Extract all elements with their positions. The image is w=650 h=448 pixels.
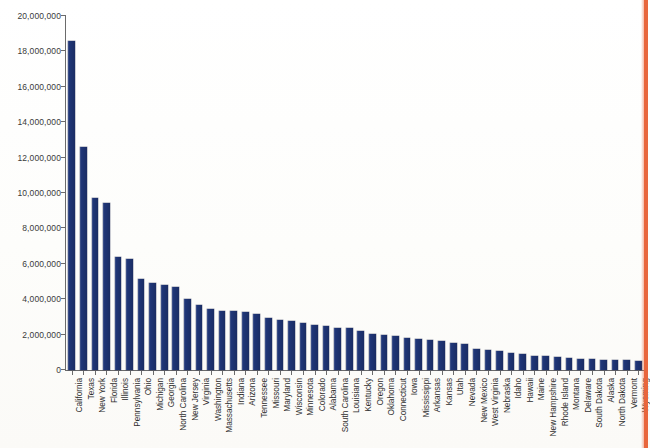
y-tick-label: 12,000,000: [0, 152, 66, 164]
x-tick-mark: [280, 371, 281, 375]
x-axis-label: Hawaii: [526, 378, 535, 403]
bar: [623, 360, 630, 370]
bar: [496, 351, 503, 370]
y-tick-label: 16,000,000: [0, 81, 66, 93]
x-axis-label: Ohio: [144, 378, 153, 395]
y-tick-label: 6,000,000: [0, 258, 66, 270]
x-axis-label: South Carolina: [341, 378, 350, 432]
y-tick-text: 8,000,000: [0, 222, 66, 234]
bar: [115, 257, 122, 370]
x-axis-label: Kansas: [445, 378, 454, 405]
x-tick-mark: [384, 371, 385, 375]
bar: [103, 203, 110, 370]
x-tick-mark: [580, 371, 581, 375]
bar: [277, 320, 284, 370]
bar: [300, 323, 307, 370]
x-axis-label: Indiana: [237, 378, 246, 405]
x-tick-mark: [442, 371, 443, 375]
x-axis-label: New York: [98, 378, 107, 413]
x-axis-label: Idaho: [514, 378, 523, 399]
x-tick-mark: [199, 371, 200, 375]
x-axis-label: Iowa: [410, 378, 419, 395]
bar: [207, 309, 214, 370]
x-tick-mark: [245, 371, 246, 375]
y-tick-text: 14,000,000: [0, 116, 66, 128]
x-axis-label: Oklahoma: [387, 378, 396, 415]
x-axis-label: South Dakota: [595, 378, 604, 428]
bar: [369, 334, 376, 370]
x-tick-mark: [488, 371, 489, 375]
y-tick-label: 14,000,000: [0, 116, 66, 128]
x-tick-mark: [106, 371, 107, 375]
x-axis-label: Maine: [537, 378, 546, 400]
bar: [253, 314, 260, 370]
x-axis-label: Arizona: [248, 378, 257, 406]
x-axis-label: Maryland: [283, 378, 292, 412]
bar: [346, 328, 353, 370]
x-tick-mark: [546, 371, 547, 375]
x-tick-mark: [291, 371, 292, 375]
x-tick-mark: [118, 371, 119, 375]
x-tick-mark: [257, 371, 258, 375]
bar: [427, 340, 434, 370]
bar: [219, 311, 226, 370]
x-tick-mark: [130, 371, 131, 375]
bar: [508, 353, 515, 370]
bar: [600, 360, 607, 370]
y-tick-text: 16,000,000: [0, 81, 66, 93]
bar: [311, 325, 318, 370]
x-axis-label: Vermont: [630, 378, 639, 409]
x-tick-mark: [592, 371, 593, 375]
bar: [577, 359, 584, 370]
y-tick-text: 20,000,000: [0, 10, 66, 22]
y-tick-label: 18,000,000: [0, 45, 66, 57]
x-axis-label: Washington: [214, 378, 223, 421]
x-tick-mark: [615, 371, 616, 375]
bar: [473, 349, 480, 370]
x-axis-label: Massachusetts: [225, 378, 234, 433]
x-axis-label: Minnesota: [306, 378, 315, 416]
x-tick-mark: [315, 371, 316, 375]
x-tick-mark: [453, 371, 454, 375]
x-axis-label: Virginia: [202, 378, 211, 405]
x-tick-mark: [234, 371, 235, 375]
x-tick-mark: [476, 371, 477, 375]
x-tick-mark: [326, 371, 327, 375]
x-axis-label: Pennsylvania: [133, 378, 142, 427]
y-tick-text: 18,000,000: [0, 45, 66, 57]
bar: [196, 305, 203, 370]
x-tick-mark: [465, 371, 466, 375]
x-tick-mark: [349, 371, 350, 375]
y-tick-text: 6,000,000: [0, 258, 66, 270]
x-tick-mark: [638, 371, 639, 375]
bar: [230, 311, 237, 370]
x-axis-label: North Carolina: [179, 378, 188, 431]
y-tick-text: 10,000,000: [0, 187, 66, 199]
y-tick-text: 2,000,000: [0, 329, 66, 341]
x-tick-mark: [95, 371, 96, 375]
x-tick-mark: [72, 371, 73, 375]
x-tick-mark: [338, 371, 339, 375]
bar: [138, 279, 145, 370]
x-tick-mark: [557, 371, 558, 375]
x-axis-label: Arkansas: [433, 378, 442, 412]
bar: [80, 147, 87, 370]
x-axis-label: Alaska: [607, 378, 616, 403]
bar: [542, 356, 549, 370]
x-tick-mark: [604, 371, 605, 375]
bar: [68, 41, 75, 370]
x-axis-label: Florida: [110, 378, 119, 403]
x-tick-mark: [176, 371, 177, 375]
x-tick-mark: [268, 371, 269, 375]
x-axis-label: Nevada: [468, 378, 477, 406]
bar: [265, 318, 272, 370]
bar: [612, 360, 619, 370]
y-tick-text: 0: [0, 364, 66, 376]
x-tick-mark: [372, 371, 373, 375]
bar: [461, 344, 468, 370]
bar: [566, 358, 573, 370]
x-axis-label: Delaware: [584, 378, 593, 413]
bar: [92, 198, 99, 370]
x-tick-mark: [211, 371, 212, 375]
x-tick-mark: [222, 371, 223, 375]
